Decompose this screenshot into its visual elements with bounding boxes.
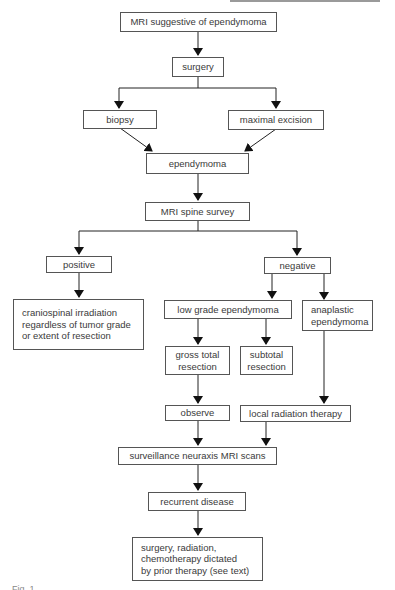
node-surveillance-mri: surveillance neuraxis MRI scans	[118, 447, 277, 465]
node-mri-suggestive: MRI suggestive of ependymoma	[120, 12, 277, 32]
node-low-grade-ependymoma: low grade ependymoma	[164, 300, 292, 319]
node-local-radiation-therapy: local radiation therapy	[240, 405, 351, 422]
node-observe: observe	[165, 405, 230, 421]
node-ependymoma: ependymoma	[146, 153, 249, 174]
node-final-therapy: surgery, radiation, chemotherapy dictate…	[132, 537, 263, 581]
figure-caption: Fig. 1	[12, 580, 35, 590]
node-biopsy: biopsy	[83, 110, 157, 129]
node-gross-total-resection: gross total resection	[165, 346, 230, 375]
node-positive: positive	[46, 256, 112, 273]
node-craniospinal-irradiation: craniospinal irradiation regardless of t…	[13, 299, 144, 350]
node-anaplastic-ependymoma: anaplastic ependymoma	[302, 300, 373, 331]
node-maximal-excision: maximal excision	[228, 110, 324, 130]
node-mri-spine-survey: MRI spine survey	[145, 202, 250, 221]
node-negative: negative	[264, 257, 331, 274]
node-recurrent-disease: recurrent disease	[148, 492, 246, 511]
node-surgery: surgery	[172, 57, 224, 77]
node-subtotal-resection: subtotal resection	[240, 346, 293, 375]
